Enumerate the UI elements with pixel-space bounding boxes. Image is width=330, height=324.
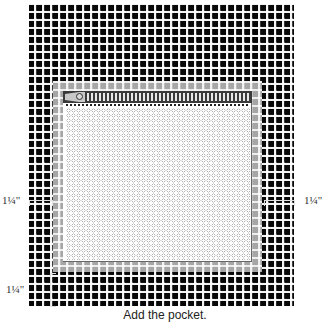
zipper-ring-icon (76, 93, 83, 100)
stitch-line (66, 104, 250, 106)
right-measure-bracket (264, 200, 295, 206)
zipper (63, 91, 252, 103)
figure-caption: Add the pocket. (0, 308, 330, 322)
right-measure-label: 1¼" (304, 194, 322, 206)
bottom-measure-label: 1¼" (6, 283, 24, 295)
zipper-teeth (87, 93, 250, 101)
left-measure-bracket (29, 200, 53, 206)
left-measure-label: 1¼" (2, 194, 20, 206)
bottom-measure-bracket (50, 273, 56, 307)
pocket-texture (66, 108, 250, 260)
